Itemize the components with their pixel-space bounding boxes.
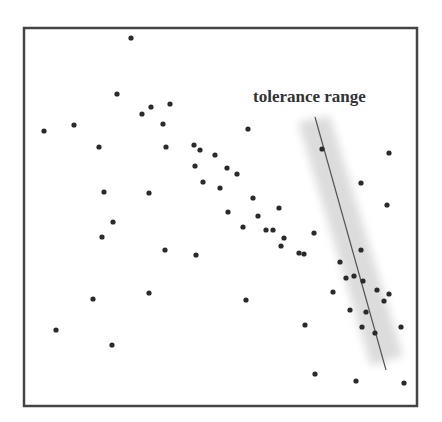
data-point [192,163,197,168]
data-point [337,259,342,264]
data-point [263,227,268,232]
data-point [99,234,104,239]
data-point [90,296,95,301]
data-point [278,243,283,248]
data-point [384,202,389,207]
data-point [312,371,317,376]
data-point [374,287,379,292]
data-point [128,35,133,40]
data-point [110,219,115,224]
data-point [245,126,250,131]
data-point [296,250,301,255]
data-point [146,190,151,195]
data-point [281,235,286,240]
data-point [41,128,46,133]
data-point [114,91,119,96]
data-point [191,142,196,147]
data-point [224,165,229,170]
data-point [358,180,363,185]
data-point [276,205,281,210]
data-point [200,179,205,184]
data-point [386,150,391,155]
data-point [148,104,153,109]
data-point [398,324,403,329]
data-point [234,171,239,176]
data-point [225,209,230,214]
data-point [343,275,348,280]
tolerance-diagram: tolerance range [0,0,442,422]
data-point [302,322,307,327]
data-point [217,185,222,190]
data-point [319,146,324,151]
data-point [109,342,114,347]
data-point [240,224,245,229]
data-point [372,330,377,335]
tolerance-range-label: tolerance range [253,87,366,106]
data-point [301,251,306,256]
data-point [146,290,151,295]
data-point [96,144,101,149]
data-point [351,273,356,278]
data-point [386,291,391,296]
data-point [162,247,167,252]
data-point [311,230,316,235]
data-point [163,144,168,149]
data-point [360,278,365,283]
data-point [353,378,358,383]
data-point [139,111,144,116]
data-point [197,147,202,152]
data-point [255,213,260,218]
data-point [167,101,172,106]
data-point [160,121,165,126]
data-point [363,309,368,314]
data-point [101,189,106,194]
data-point [71,122,76,127]
data-point [212,152,217,157]
data-point [270,227,275,232]
data-point [358,247,363,252]
data-point [359,324,364,329]
data-point [401,380,406,385]
data-point [193,252,198,257]
data-point [243,297,248,302]
data-point [381,298,386,303]
data-point [250,195,255,200]
data-point [330,289,335,294]
data-point [53,327,58,332]
data-point [347,307,352,312]
